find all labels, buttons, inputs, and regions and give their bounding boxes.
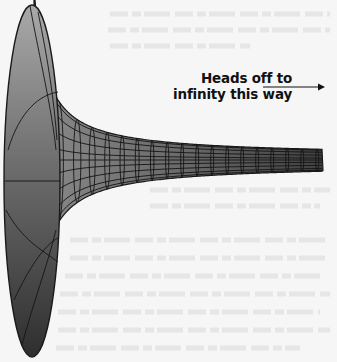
annotation-line-1: Heads off to (172, 70, 292, 86)
annotation-line-2: infinity this way (172, 86, 292, 102)
horn-body (34, 0, 323, 341)
book-page: Heads off to infinity this way (0, 0, 337, 362)
gabriels-horn-diagram (0, 0, 337, 362)
arrow-head-icon (318, 84, 325, 91)
infinity-annotation: Heads off to infinity this way (172, 70, 292, 102)
